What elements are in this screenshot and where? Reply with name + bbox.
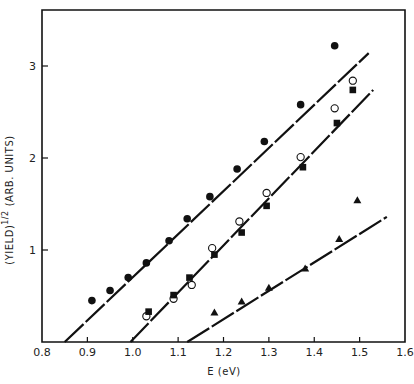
- data-point-filled-triangle: [335, 235, 343, 242]
- x-tick-label: 1.4: [306, 346, 324, 359]
- y-axis-title-exponent: 1/2: [1, 210, 10, 224]
- data-point-filled-circle: [165, 237, 173, 245]
- x-tick-label: 0.9: [79, 346, 97, 359]
- y-tick-label: 3: [29, 60, 36, 73]
- data-point-filled-square: [350, 87, 357, 94]
- fit-line: [130, 90, 373, 342]
- data-point-open-circle: [209, 245, 216, 252]
- x-tick-label: 1.2: [215, 346, 233, 359]
- data-point-open-circle: [297, 153, 304, 160]
- data-point-filled-square: [300, 164, 307, 171]
- x-tick-label: 1.5: [351, 346, 369, 359]
- y-tick-label: 2: [29, 152, 36, 165]
- x-tick-label: 1.3: [260, 346, 278, 359]
- fit-line: [187, 217, 387, 342]
- data-point-filled-circle: [88, 297, 96, 305]
- data-point-filled-triangle: [238, 298, 246, 305]
- fit-lines: [65, 53, 387, 342]
- fit-line: [65, 53, 369, 342]
- data-point-filled-circle: [233, 165, 241, 173]
- y-axis-title-units: (ARB. UNITS): [4, 135, 15, 206]
- data-point-filled-circle: [143, 259, 151, 267]
- x-axis-ticks: 0.80.91.01.11.21.31.41.51.6: [33, 337, 414, 359]
- data-point-open-circle: [349, 77, 356, 84]
- data-point-filled-circle: [206, 193, 214, 201]
- x-axis-title: E (eV): [207, 366, 240, 377]
- yield-vs-energy-chart: 0.80.91.01.11.21.31.41.51.6 123 E (eV) (…: [0, 0, 414, 384]
- data-point-filled-triangle: [353, 196, 361, 203]
- data-point-filled-circle: [331, 42, 339, 50]
- data-point-filled-square: [263, 203, 270, 210]
- data-point-filled-square: [334, 120, 341, 127]
- x-tick-label: 1.6: [396, 346, 414, 359]
- data-point-filled-square: [170, 292, 177, 299]
- data-point-open-circle: [188, 281, 195, 288]
- plot-frame: [42, 10, 405, 342]
- y-axis-ticks: 123: [29, 60, 48, 257]
- x-tick-label: 1.0: [124, 346, 142, 359]
- data-point-filled-square: [211, 251, 218, 258]
- data-point-open-circle: [236, 218, 243, 225]
- y-axis-title-main: (YIELD): [4, 225, 15, 265]
- x-tick-label: 0.8: [33, 346, 51, 359]
- y-tick-label: 1: [29, 244, 36, 257]
- data-point-filled-triangle: [301, 264, 309, 271]
- svg-text:(YIELD)1/2(ARB. UNITS): (YIELD)1/2(ARB. UNITS): [1, 135, 15, 264]
- data-point-filled-circle: [261, 138, 269, 146]
- data-point-filled-triangle: [265, 284, 273, 291]
- y-axis-title: (YIELD)1/2(ARB. UNITS): [1, 135, 15, 264]
- data-point-filled-circle: [297, 101, 305, 109]
- data-points: [88, 42, 361, 320]
- data-point-filled-square: [238, 229, 245, 236]
- data-point-filled-square: [145, 308, 152, 315]
- data-point-open-circle: [263, 189, 270, 196]
- data-point-filled-circle: [124, 274, 132, 282]
- data-point-filled-circle: [183, 215, 191, 223]
- data-point-open-circle: [331, 105, 338, 112]
- x-tick-label: 1.1: [169, 346, 187, 359]
- data-point-filled-circle: [106, 287, 114, 295]
- data-point-filled-triangle: [210, 309, 218, 316]
- data-point-filled-square: [186, 274, 193, 281]
